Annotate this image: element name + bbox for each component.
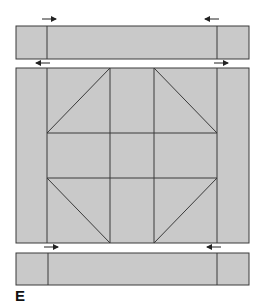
- bottom-strip: [16, 253, 249, 285]
- top-strip: [16, 19, 249, 59]
- figure-label: E: [15, 287, 25, 304]
- quilt-block-diagram: [0, 0, 267, 308]
- middle-block: [16, 68, 249, 243]
